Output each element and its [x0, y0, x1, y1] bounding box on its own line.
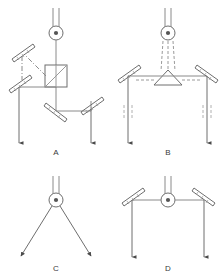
mirror-a-lower-right [81, 97, 104, 115]
source-dot-c [54, 198, 58, 202]
panel-label-b: B [165, 148, 170, 157]
panel-a: A [9, 8, 104, 157]
beam-c-diverging-right [60, 206, 91, 256]
mirror-a-mid-left [9, 75, 32, 93]
source-dot-a [54, 31, 58, 35]
panel-d: D [122, 176, 215, 273]
beam-b-dashed-right-edge [173, 41, 175, 71]
mirror-a-upper-left [12, 44, 35, 62]
light-source-c [49, 176, 63, 207]
mirror-d-left [122, 188, 145, 206]
panel-b: B [118, 8, 218, 157]
beam-b-dashed-left-edge [161, 41, 163, 71]
source-dot-d [166, 198, 170, 202]
panel-label-a: A [53, 148, 59, 157]
beam-c-diverging-left [21, 206, 52, 256]
prism-b [154, 70, 182, 85]
light-source-a [49, 8, 63, 40]
optical-schematic-figure: A [0, 0, 224, 277]
source-dot-b [166, 31, 170, 35]
panel-label-d: D [165, 264, 171, 273]
light-source-b [161, 8, 175, 40]
panel-label-c: C [53, 264, 59, 273]
panel-c: C [21, 176, 91, 273]
light-source-d [161, 176, 175, 207]
beam-a-dashed-to-upper-mirror [24, 54, 46, 76]
